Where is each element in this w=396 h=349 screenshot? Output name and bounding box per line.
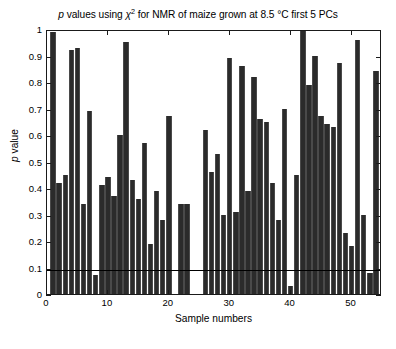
significance-threshold-line xyxy=(47,270,380,271)
x-axis-title: Sample numbers xyxy=(46,313,381,324)
bar xyxy=(154,191,159,294)
y-axis-tick-label: 0.3 xyxy=(2,211,42,221)
y-axis-tick xyxy=(376,189,381,190)
y-axis-tick xyxy=(46,269,51,270)
x-axis-tick xyxy=(229,290,230,295)
bar xyxy=(87,111,92,294)
bar xyxy=(130,180,135,294)
x-axis-tick xyxy=(46,30,47,35)
x-axis-tick xyxy=(107,290,108,295)
bar xyxy=(56,183,61,294)
bar xyxy=(361,215,366,295)
bar xyxy=(142,143,147,294)
y-axis-tick-label: 0.9 xyxy=(2,52,42,62)
y-axis-tick-labels: 00.10.20.30.40.50.60.70.80.91 xyxy=(0,30,42,295)
chart-title-mid2: for NMR of maize grown at 8.5 °C first 5… xyxy=(135,9,338,20)
bar xyxy=(294,175,299,294)
bar xyxy=(233,212,238,294)
x-axis-tick-marks-bottom xyxy=(46,289,381,295)
bar xyxy=(270,183,275,294)
plot-area xyxy=(46,30,381,295)
y-axis-tick-label: 1 xyxy=(2,25,42,35)
x-axis-tick xyxy=(290,30,291,35)
y-axis-tick-label: 0.1 xyxy=(2,264,42,274)
x-axis-tick-label: 0 xyxy=(26,297,66,308)
bar xyxy=(282,109,287,295)
y-axis-tick xyxy=(46,189,51,190)
bar xyxy=(318,116,323,294)
y-axis-tick xyxy=(46,57,51,58)
x-axis-tick xyxy=(351,290,352,295)
bar xyxy=(343,233,348,294)
bar xyxy=(312,56,317,295)
y-axis-tick-label: 0.4 xyxy=(2,184,42,194)
bar xyxy=(239,66,244,294)
bar xyxy=(160,220,165,294)
y-axis-tick xyxy=(46,295,51,296)
x-axis-tick xyxy=(168,290,169,295)
x-axis-tick-label: 20 xyxy=(148,297,188,308)
bar xyxy=(136,199,141,294)
bar xyxy=(245,191,250,294)
bar xyxy=(276,220,281,294)
bar xyxy=(81,204,86,294)
bar xyxy=(105,177,110,294)
x-axis-tick xyxy=(351,30,352,35)
y-axis-tick xyxy=(376,110,381,111)
x-axis-tick-labels: 01020304050 xyxy=(46,297,381,311)
x-axis-tick-label: 10 xyxy=(87,297,127,308)
x-axis-tick-label: 40 xyxy=(270,297,310,308)
y-axis-tick xyxy=(46,136,51,137)
y-axis-title-rest: value xyxy=(9,129,20,156)
y-axis-title-p: p xyxy=(9,156,20,162)
y-axis-tick xyxy=(376,269,381,270)
y-axis-tick xyxy=(376,83,381,84)
bar xyxy=(178,204,183,294)
y-axis-tick-label: 0.2 xyxy=(2,237,42,247)
chart-figure: p values using χ2 for NMR of maize grown… xyxy=(0,0,396,349)
bar xyxy=(300,30,305,294)
bar xyxy=(337,63,342,294)
bar xyxy=(264,122,269,294)
bar xyxy=(306,85,311,294)
y-axis-tick xyxy=(46,110,51,111)
x-axis-tick xyxy=(290,290,291,295)
bar xyxy=(69,50,74,294)
bar xyxy=(209,172,214,294)
bar xyxy=(251,77,256,294)
y-axis-tick-label: 0.8 xyxy=(2,78,42,88)
bar xyxy=(257,119,262,294)
y-axis-tick-marks-right xyxy=(375,30,381,295)
chart-title: p values using χ2 for NMR of maize grown… xyxy=(0,8,396,21)
x-axis-tick-marks-top xyxy=(46,30,381,36)
bar xyxy=(99,185,104,294)
y-axis-tick xyxy=(376,242,381,243)
bar xyxy=(63,175,68,294)
y-axis-tick xyxy=(376,216,381,217)
bars-layer xyxy=(47,31,380,294)
bar xyxy=(75,48,80,294)
y-axis-tick xyxy=(376,136,381,137)
y-axis-title: p value xyxy=(9,111,20,181)
bar xyxy=(221,215,226,295)
y-axis-tick-marks-left xyxy=(46,30,52,295)
y-axis-tick xyxy=(46,83,51,84)
bar xyxy=(227,58,232,294)
bar xyxy=(355,40,360,294)
bar xyxy=(123,42,128,294)
y-axis-tick xyxy=(46,216,51,217)
y-axis-tick xyxy=(46,242,51,243)
x-axis-tick-label: 30 xyxy=(209,297,249,308)
bar xyxy=(215,154,220,294)
bar xyxy=(184,204,189,294)
bar xyxy=(111,196,116,294)
y-axis-tick xyxy=(46,163,51,164)
x-axis-tick xyxy=(229,30,230,35)
x-axis-tick xyxy=(107,30,108,35)
y-axis-tick xyxy=(376,163,381,164)
y-axis-tick xyxy=(376,57,381,58)
bar xyxy=(166,116,171,294)
chart-title-mid1: values using xyxy=(64,9,126,20)
x-axis-tick xyxy=(168,30,169,35)
x-axis-tick xyxy=(46,290,47,295)
